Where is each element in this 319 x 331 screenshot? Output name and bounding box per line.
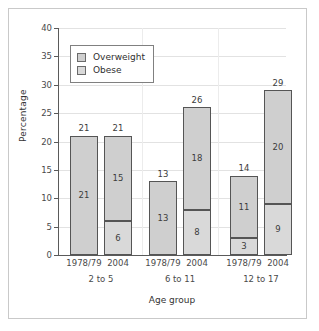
legend-item-overweight[interactable]: Overweight <box>77 51 145 64</box>
y-tick-label: 25 <box>41 109 52 118</box>
legend-swatch-overweight-icon <box>77 53 86 62</box>
gridline-y-40 <box>58 28 286 29</box>
bar-6-to-11-2004[interactable]: 81826 <box>183 107 211 255</box>
bar-segment-obese[interactable]: 6 <box>104 221 132 255</box>
y-tick-mark <box>54 255 58 256</box>
bar-2-to-5-2004[interactable]: 61521 <box>104 136 132 255</box>
gridline-y-30 <box>58 85 286 86</box>
y-tick-label: 10 <box>41 194 52 203</box>
bar-total-label: 14 <box>230 164 258 173</box>
y-tick-mark <box>54 142 58 143</box>
y-tick-mark <box>54 170 58 171</box>
y-tick-mark <box>54 56 58 57</box>
bar-segment-value-obese: 8 <box>194 228 199 237</box>
y-tick-mark <box>54 113 58 114</box>
bar-2-to-5-1978-79[interactable]: 2121 <box>70 136 98 255</box>
bar-6-to-11-1978-79[interactable]: 1313 <box>149 181 177 255</box>
gridline-y-25 <box>58 113 286 114</box>
legend-item-obese[interactable]: Obese <box>77 64 145 77</box>
bar-segment-overweight[interactable]: 11 <box>230 176 258 238</box>
y-tick-mark <box>54 28 58 29</box>
bar-segment-value-overweight: 11 <box>239 203 250 212</box>
bar-segment-overweight[interactable]: 20 <box>264 90 292 204</box>
bar-total-label: 21 <box>104 124 132 133</box>
bar-12-to-17-1978-79[interactable]: 31114 <box>230 176 258 255</box>
y-tick-label: 20 <box>41 137 52 146</box>
x-axis-title: Age group <box>58 296 286 305</box>
legend-label-overweight: Overweight <box>93 53 145 62</box>
x-group-label: 6 to 11 <box>140 275 220 284</box>
x-axis-line <box>58 255 287 256</box>
bar-segment-overweight[interactable]: 13 <box>149 181 177 255</box>
bar-segment-value-overweight: 20 <box>273 143 284 152</box>
bar-total-label: 29 <box>264 79 292 88</box>
bar-segment-value-overweight: 18 <box>192 154 203 163</box>
bar-segment-overweight[interactable]: 18 <box>183 107 211 209</box>
bar-total-label: 26 <box>183 96 211 105</box>
bar-segment-overweight[interactable]: 15 <box>104 136 132 221</box>
x-group-label: 2 to 5 <box>61 275 141 284</box>
y-tick-mark <box>54 198 58 199</box>
bar-segment-obese[interactable]: 8 <box>183 210 211 255</box>
y-tick-label: 40 <box>41 24 52 33</box>
x-group-label: 12 to 17 <box>221 275 301 284</box>
legend-label-obese: Obese <box>93 66 122 75</box>
chart-figure: Percentage 4035302520151050 212161521131… <box>0 0 319 331</box>
y-tick-label: 35 <box>41 52 52 61</box>
y-axis-line <box>58 28 59 256</box>
bar-total-label: 13 <box>149 170 177 179</box>
y-tick-label: 15 <box>41 166 52 175</box>
legend-swatch-obese-icon <box>77 66 86 75</box>
bar-segment-obese[interactable]: 3 <box>230 238 258 255</box>
bar-segment-value-overweight: 21 <box>79 191 90 200</box>
y-tick-label: 0 <box>47 251 52 260</box>
y-axis-title: Percentage <box>18 89 28 142</box>
bar-segment-value-obese: 6 <box>115 234 120 243</box>
bar-segment-value-obese: 3 <box>241 242 246 251</box>
bar-segment-value-obese: 9 <box>275 225 280 234</box>
bar-total-label: 21 <box>70 124 98 133</box>
gridline-group-sep-1 <box>218 28 219 255</box>
bar-segment-overweight[interactable]: 21 <box>70 136 98 255</box>
y-tick-mark <box>54 227 58 228</box>
plot-area: 4035302520151050 21216152113138182631114… <box>58 28 286 255</box>
chart-legend: Overweight Obese <box>70 45 154 83</box>
bar-12-to-17-2004[interactable]: 92029 <box>264 90 292 255</box>
bar-segment-obese[interactable]: 9 <box>264 204 292 255</box>
bar-segment-value-overweight: 13 <box>158 214 169 223</box>
x-tick-label: 2004 <box>248 259 308 268</box>
bar-segment-value-overweight: 15 <box>113 174 124 183</box>
y-tick-mark <box>54 85 58 86</box>
y-tick-label: 5 <box>47 222 52 231</box>
y-tick-label: 30 <box>41 81 52 90</box>
